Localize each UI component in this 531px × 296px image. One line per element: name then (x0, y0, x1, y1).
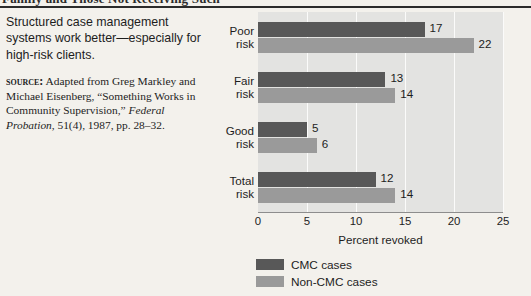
bar-value-label: 13 (390, 71, 403, 84)
category-label: Poor risk (194, 24, 254, 51)
source-note: Source: Adapted from Greg Markley and Mi… (6, 74, 211, 132)
bar-group: Good risk56 (258, 112, 503, 162)
bar-value-label: 17 (430, 21, 443, 34)
bar (258, 88, 395, 103)
bar (258, 22, 425, 37)
header-rule (0, 6, 531, 8)
bar-value-label: 12 (381, 171, 394, 184)
bar-group: Poor risk1722 (258, 12, 503, 62)
category-label: Fair risk (194, 74, 254, 101)
x-tick-label: 0 (255, 215, 261, 227)
text-panel: Structured case management systems work … (6, 14, 211, 133)
bar (258, 122, 307, 137)
legend-label: CMC cases (291, 258, 352, 272)
bar-chart: Poor risk1722Fair risk1314Good risk56Tot… (214, 12, 526, 292)
legend-item: Non-CMC cases (256, 273, 378, 290)
bar-value-label: 22 (479, 37, 492, 50)
x-tick-label: 20 (448, 215, 461, 227)
legend-label: Non-CMC cases (291, 275, 378, 289)
bar-group: Total risk1214 (258, 162, 503, 212)
gridline (503, 12, 504, 212)
category-label: Total risk (194, 174, 254, 201)
chart-legend: CMC casesNon-CMC cases (256, 256, 378, 290)
bar (258, 72, 385, 87)
running-header: Family and Those Not Receiving Such (0, 0, 531, 9)
bar-group: Fair risk1314 (258, 62, 503, 112)
x-tick-label: 25 (497, 215, 510, 227)
bar (258, 138, 317, 153)
bar-value-label: 5 (312, 121, 318, 134)
category-label: Good risk (194, 124, 254, 151)
legend-swatch (256, 259, 284, 270)
bar-value-label: 14 (400, 187, 413, 200)
plot-area: Poor risk1722Fair risk1314Good risk56Tot… (258, 12, 503, 212)
source-label: Source: (6, 74, 43, 88)
bar (258, 38, 474, 53)
legend-swatch (256, 276, 284, 287)
x-axis-line (258, 212, 503, 213)
x-tick-label: 5 (304, 215, 310, 227)
x-tick-label: 15 (399, 215, 412, 227)
bar (258, 172, 376, 187)
source-text-part2: , 51(4), 1987, pp. 28–32. (52, 119, 165, 131)
bar-value-label: 14 (400, 87, 413, 100)
legend-item: CMC cases (256, 256, 378, 273)
x-tick-label: 10 (350, 215, 363, 227)
bar-value-label: 6 (322, 137, 328, 150)
figure-caption: Structured case management systems work … (6, 14, 211, 63)
x-axis-title: Percent revoked (258, 233, 503, 246)
bar (258, 188, 395, 203)
